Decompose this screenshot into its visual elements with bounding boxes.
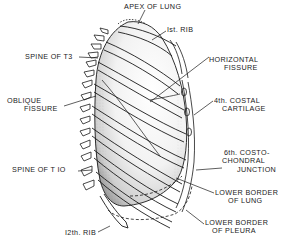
label-spine-of-t3: SPINE OF T3 bbox=[25, 53, 73, 61]
label-4th-costal-cartilage: 4th. COSTAL CARTILAGE bbox=[214, 97, 266, 114]
label-spine-of-t10: SPINE OF T IO bbox=[12, 166, 66, 174]
label-6th-costochondral-junction: 6th. COSTO- CHONDRAL JUNCTION bbox=[222, 149, 276, 174]
label-lower-pleura-line2: OF PLEURA bbox=[205, 227, 268, 235]
label-horizontal-fissure: HORIZONTAL FISSURE bbox=[209, 56, 258, 73]
label-oblique-fissure: OBLIQUE FISSURE bbox=[7, 97, 58, 114]
label-lower-lung-line2: OF LUNG bbox=[215, 197, 278, 205]
label-12th-rib: I2th. RIB bbox=[65, 229, 96, 237]
label-first-rib: Ist. RIB bbox=[167, 26, 193, 34]
label-6th-costo-line3: JUNCTION bbox=[222, 166, 276, 174]
label-oblique-fissure-line2: FISSURE bbox=[7, 105, 58, 113]
label-4th-costal-line2: CARTILAGE bbox=[214, 105, 266, 113]
label-apex-of-lung: APEX OF LUNG bbox=[124, 3, 181, 11]
label-lower-border-of-lung: LOWER BORDER OF LUNG bbox=[215, 189, 278, 206]
label-lower-border-of-pleura: LOWER BORDER OF PLEURA bbox=[205, 219, 268, 236]
lung-diagram bbox=[0, 0, 284, 248]
lung-shape bbox=[95, 22, 187, 206]
label-horizontal-fissure-line2: FISSURE bbox=[209, 64, 258, 72]
